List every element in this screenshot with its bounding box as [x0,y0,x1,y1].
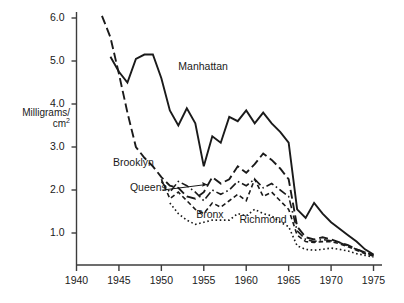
x-tick-label: 1970 [313,274,349,286]
y-tick-label: 6.0 [35,11,65,23]
x-tick-label: 1955 [186,274,222,286]
series-line-brooklyn [102,16,374,256]
series-label-queens: Queens [130,181,167,193]
y-tick-label: 2.0 [35,183,65,195]
x-tick-label: 1950 [143,274,179,286]
x-tick-label: 1945 [101,274,137,286]
series-label-bronx: Bronx [196,208,223,220]
x-tick-label: 1965 [271,274,307,286]
series-label-richmond: Richmond [239,213,286,225]
x-tick-label: 1960 [228,274,264,286]
chart-figure: Milligrams/ cm2 1.02.03.04.05.06.0194019… [0,0,404,303]
series-label-manhattan: Manhattan [178,60,228,72]
x-tick-label: 1940 [59,274,95,286]
x-tick-label: 1975 [356,274,392,286]
y-tick-label: 1.0 [35,226,65,238]
y-tick-label: 5.0 [35,54,65,66]
series-label-brooklyn: Brooklyn [113,156,154,168]
y-tick-label: 4.0 [35,97,65,109]
y-tick-label: 3.0 [35,140,65,152]
